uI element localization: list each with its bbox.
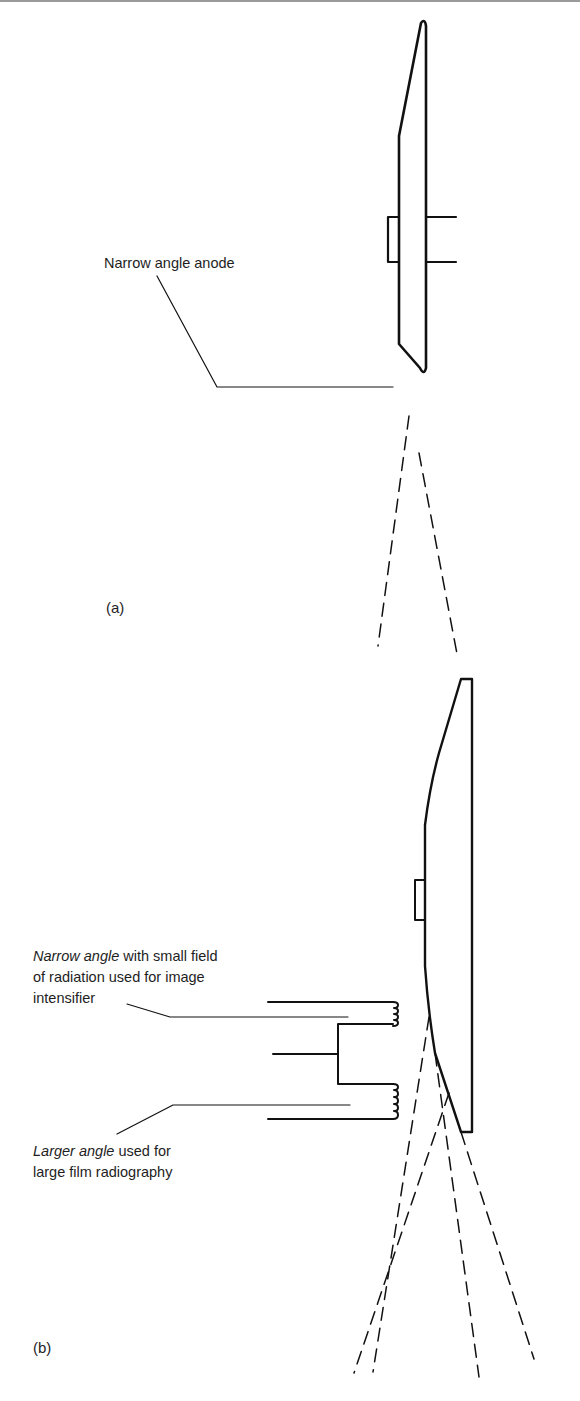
narrow-angle-text-2: of radiation used for image — [33, 969, 205, 985]
anode-label: Narrow angle anode — [104, 253, 235, 274]
panel-a-anode — [388, 21, 456, 372]
panel-a-xray-beam — [378, 416, 457, 654]
panel-b-xray-beams — [354, 1017, 534, 1377]
panel-b-anode — [415, 679, 472, 1132]
panel-a-tag: (a) — [106, 597, 124, 618]
narrow-angle-text-3: intensifier — [33, 990, 95, 1006]
figure-page: Narrow angle anode (a) Narrow angle with… — [0, 0, 580, 1401]
panel-b-cathode — [268, 1002, 398, 1119]
larger-angle-text-2: large film radiography — [33, 1164, 172, 1180]
narrow-angle-text-1: with small field — [119, 948, 217, 964]
panel-a-leader-line — [157, 276, 393, 387]
larger-angle-emphasis: Larger angle — [33, 1143, 114, 1159]
larger-angle-text-1: used for — [114, 1143, 170, 1159]
anode-diagram — [0, 0, 580, 1401]
narrow-angle-label: Narrow angle with small field of radiati… — [33, 946, 218, 1009]
panel-b-tag: (b) — [33, 1337, 51, 1358]
larger-angle-label: Larger angle used for large film radiogr… — [33, 1141, 172, 1183]
narrow-angle-emphasis: Narrow angle — [33, 948, 119, 964]
